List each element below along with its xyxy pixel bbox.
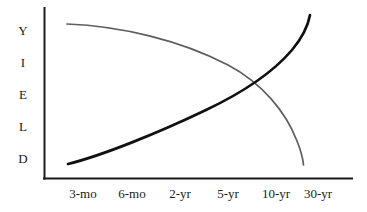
y-axis-letter: L: [12, 120, 34, 133]
yield-curve-chart: Y I E L D 3-mo 6-mo 2-yr 5-yr 10-yr 30-y…: [0, 0, 367, 212]
y-axis-letter: Y: [12, 24, 34, 37]
y-axis-letter: D: [12, 152, 34, 165]
y-axis-letter: E: [12, 88, 34, 101]
x-tick-label-3mo: 3-mo: [55, 186, 111, 201]
chart-background: [0, 0, 367, 212]
y-axis-letter: I: [12, 56, 34, 69]
chart-canvas: [0, 0, 367, 212]
x-tick-label-30yr: 30-yr: [290, 186, 346, 201]
